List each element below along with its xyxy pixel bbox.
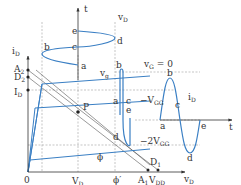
svg-text:d: d — [113, 132, 119, 142]
svg-text:a: a — [160, 121, 166, 131]
svg-text:b: b — [116, 60, 122, 70]
svg-text:e: e — [201, 121, 206, 131]
svg-text:iD: iD — [12, 46, 20, 57]
svg-text:t: t — [84, 4, 88, 14]
svg-text:e: e — [72, 26, 77, 36]
svg-text:0: 0 — [24, 175, 30, 185]
svg-text:P: P — [83, 102, 89, 112]
svg-text:ϕ: ϕ — [97, 152, 103, 162]
mosfet-load-line-diagram: iD t t vD 0 A2 D2 ID VD P ϕ ϕ′ A1 VDD D1… — [0, 0, 241, 185]
svg-text:D1: D1 — [150, 157, 161, 168]
svg-text:VD: VD — [71, 176, 84, 185]
svg-text:b: b — [44, 42, 50, 52]
svg-text:−VGG: −VGG — [140, 95, 164, 106]
svg-text:b: b — [167, 68, 173, 78]
svg-text:c: c — [72, 42, 77, 52]
svg-text:−2VGG: −2VGG — [140, 136, 170, 147]
svg-text:vg: vg — [99, 68, 109, 80]
svg-text:iD: iD — [188, 92, 196, 103]
svg-text:t: t — [229, 122, 233, 132]
svg-text:vD: vD — [183, 174, 194, 185]
svg-text:d: d — [117, 36, 123, 46]
svg-text:d: d — [187, 153, 193, 163]
svg-text:vD: vD — [117, 12, 128, 23]
svg-text:ID: ID — [14, 87, 23, 98]
svg-text:e: e — [126, 105, 131, 115]
svg-text:a: a — [113, 96, 119, 106]
svg-text:c: c — [175, 100, 180, 110]
svg-text:a: a — [81, 61, 87, 71]
vD-waveform — [42, 31, 115, 65]
svg-text:VDD: VDD — [148, 175, 165, 185]
svg-text:A1: A1 — [137, 175, 148, 185]
svg-text:ϕ′: ϕ′ — [113, 175, 121, 185]
